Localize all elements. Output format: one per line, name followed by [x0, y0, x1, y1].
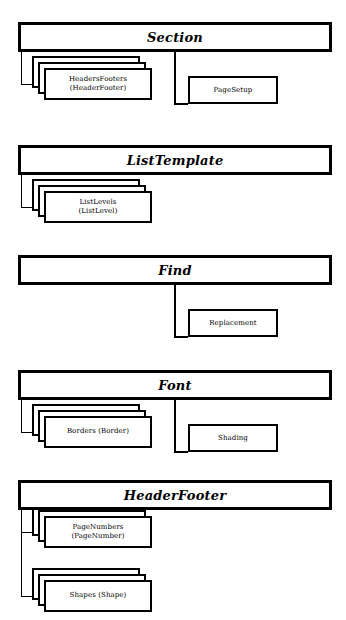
stack-sheet-front: PageNumbers(PageNumber)	[44, 516, 152, 548]
object-title-box-font[interactable]: Font	[18, 370, 332, 400]
connector-vertical-left	[21, 175, 22, 208]
object-title-label: HeaderFooter	[124, 489, 227, 502]
connector-horizontal-replacement	[174, 336, 188, 338]
stack-sheet-front: Shapes (Shape)	[44, 580, 152, 612]
object-box-label: Shading	[218, 434, 248, 443]
connector-horizontal-shading	[174, 451, 188, 453]
collection-label: PageNumbers(PageNumber)	[71, 523, 124, 541]
stack-sheet-front: HeadersFooters(HeaderFooter)	[44, 68, 152, 100]
object-title-label: ListTemplate	[127, 154, 224, 167]
object-title-box-section[interactable]: Section	[18, 22, 332, 52]
object-title-box-find[interactable]: Find	[18, 255, 332, 285]
object-title-box-headerfooter[interactable]: HeaderFooter	[18, 480, 332, 510]
collection-stack-pagenumbers[interactable]: PageNumbers(PageNumber)	[32, 504, 154, 550]
stack-sheet-front: ListLevels(ListLevel)	[44, 191, 152, 223]
collection-label: ListLevels(ListLevel)	[79, 198, 118, 216]
object-model-diagram: Section HeadersFooters(HeaderFooter) Pag…	[0, 0, 346, 620]
object-box-label: Replacement	[209, 319, 257, 328]
connector-vertical-left	[21, 400, 22, 433]
object-box-shading[interactable]: Shading	[188, 424, 278, 452]
object-title-box-listtemplate[interactable]: ListTemplate	[18, 145, 332, 175]
connector-horizontal-pagesetup	[174, 103, 188, 105]
connector-vertical-left	[21, 52, 22, 85]
connector-vertical-pagesetup	[174, 52, 176, 105]
object-title-label: Font	[158, 379, 191, 392]
connector-vertical-shading	[174, 400, 176, 453]
stack-sheet-front: Borders (Border)	[44, 416, 152, 448]
collection-stack-headersfooters[interactable]: HeadersFooters(HeaderFooter)	[32, 56, 154, 102]
collection-stack-shapes[interactable]: Shapes (Shape)	[32, 568, 154, 614]
object-box-pagesetup[interactable]: PageSetup	[188, 76, 278, 104]
collection-label: Borders (Border)	[67, 427, 129, 436]
object-title-label: Section	[147, 31, 203, 44]
collection-stack-borders[interactable]: Borders (Border)	[32, 404, 154, 450]
connector-vertical-spine	[21, 510, 22, 597]
collection-label: HeadersFooters(HeaderFooter)	[69, 75, 127, 93]
collection-stack-listlevels[interactable]: ListLevels(ListLevel)	[32, 179, 154, 225]
connector-vertical-replacement	[174, 285, 176, 338]
object-title-label: Find	[158, 264, 192, 277]
object-box-label: PageSetup	[214, 86, 253, 95]
collection-label: Shapes (Shape)	[70, 591, 127, 600]
object-box-replacement[interactable]: Replacement	[188, 309, 278, 337]
